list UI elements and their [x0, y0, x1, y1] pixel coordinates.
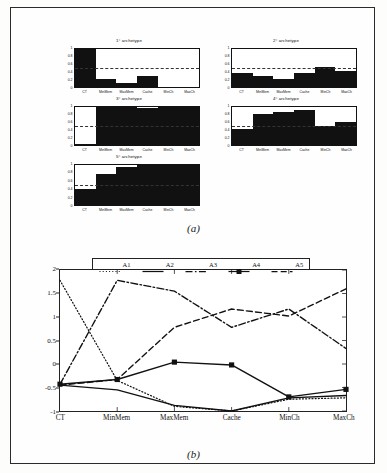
archetype-bar: [294, 110, 315, 145]
archetype-x-tick: MaxCh: [336, 88, 357, 96]
archetype-y-tick: 0.2: [68, 78, 73, 82]
archetype-x-tick: MinCh: [315, 88, 336, 96]
archetype-y-tick: 0: [228, 144, 230, 148]
x-axis-ticks: CTMinMemMaxMemCacheMinChMaxCh: [59, 414, 347, 426]
archetype-x-tick: MinMem: [95, 146, 116, 154]
archetype-x-tick: MaxMem: [116, 88, 137, 96]
archetype-x-tick: MinMem: [252, 146, 273, 154]
archetype-x-tick: MaxCh: [179, 88, 200, 96]
archetype-x-tick: Cache: [137, 146, 158, 154]
y-tick-label: 0.5: [47, 337, 56, 345]
legend-label: A3: [209, 261, 217, 268]
legend-item-a1: A1: [99, 261, 131, 268]
archetype-y-tick: 0.2: [225, 78, 230, 82]
archetype-y-tick: 0.2: [225, 136, 230, 140]
archetype-x-tick: MinMem: [252, 88, 273, 96]
x-tick-label: Cache: [223, 414, 241, 422]
archetype-x-tick: CT: [74, 88, 95, 96]
archetype-plot-area: [74, 106, 200, 146]
archetype-bar: [137, 76, 158, 87]
legend-line-swatch: [99, 261, 121, 268]
x-tick-label: CT: [56, 414, 65, 422]
legend-line-swatch: [228, 261, 250, 268]
archetype-x-tick: CT: [74, 146, 95, 154]
archetype-y-tick: 0.2: [68, 196, 73, 200]
archetype-x-tick: CT: [74, 206, 95, 214]
archetype-y-tick: 0.8: [225, 54, 230, 58]
archetype-x-tick: MinMem: [95, 206, 116, 214]
archetype-threshold-line: [75, 68, 199, 69]
figure-page: 1° archetype00.20.40.60.81CTMinMemMaxMem…: [0, 0, 387, 473]
archetype-threshold-line: [232, 68, 356, 69]
archetype-x-tick: MaxCh: [336, 146, 357, 154]
series-line-a3: [60, 280, 346, 384]
archetype-x-tick: MaxMem: [116, 146, 137, 154]
x-tick-label: MaxCh: [333, 414, 355, 422]
archetype-y-tick: 1: [71, 104, 73, 108]
panel-b-linechart: A1A2A3A4A5 21.510.50-0.5-1 CTMinMemMaxMe…: [34, 258, 354, 438]
archetype-bar: [273, 112, 294, 145]
archetype-bar: [315, 67, 336, 87]
archetype-y-tick: 1: [228, 104, 230, 108]
line-series-group: [60, 270, 346, 411]
archetype-bar: [75, 144, 96, 145]
archetype-threshold-line: [75, 126, 199, 127]
legend-label: A1: [123, 261, 131, 268]
legend-item-a5: A5: [271, 261, 303, 268]
archetype-x-tick: MinCh: [315, 146, 336, 154]
archetype-x-tick: CT: [231, 88, 252, 96]
archetype-bar: [315, 126, 336, 145]
archetype-bar: [96, 174, 117, 205]
archetype-bar: [253, 76, 274, 87]
archetype-y-tick: 0.4: [225, 128, 230, 132]
archetype-y-tick: 0.6: [225, 62, 230, 66]
archetype-bar: [294, 73, 315, 87]
series-line-a2: [60, 385, 346, 411]
archetype-y-tick: 0.8: [68, 170, 73, 174]
archetype-x-axis: CTMinMemMaxMemCacheMinChMaxCh: [74, 206, 200, 214]
archetype-y-axis: 00.20.40.60.81: [58, 164, 74, 206]
archetype-y-tick: 1: [71, 162, 73, 166]
archetype-x-tick: MaxMem: [273, 146, 294, 154]
archetype-threshold-line: [75, 185, 199, 186]
legend-label: A5: [295, 261, 303, 268]
archetype-y-tick: 0.4: [68, 128, 73, 132]
legend-item-a2: A2: [142, 261, 174, 268]
archetype-y-tick: 0: [71, 204, 73, 208]
series-line-a1: [60, 280, 346, 411]
archetype-y-axis: 00.20.40.60.81: [215, 106, 231, 146]
panel-a-caption: (a): [0, 222, 387, 234]
archetype-x-tick: MinMem: [95, 88, 116, 96]
series-marker-a4: [172, 360, 177, 365]
archetype-bar: [253, 114, 274, 145]
archetype-y-tick: 0: [71, 144, 73, 148]
x-tick-label: MinCh: [279, 414, 299, 422]
y-axis-ticks: 21.510.50-0.5-1: [34, 269, 59, 412]
archetype-plot-area: [231, 48, 357, 88]
archetype-plot-area: [74, 164, 200, 206]
archetype-y-tick: 0.4: [68, 187, 73, 191]
archetype-y-tick: 0.6: [225, 120, 230, 124]
archetype-y-tick: 1: [71, 46, 73, 50]
archetype-bar: [232, 129, 253, 145]
archetype-x-axis: CTMinMemMaxMemCacheMinChMaxCh: [74, 88, 200, 96]
archetype-chart-4: 4° archetype00.20.40.60.81CTMinMemMaxMem…: [215, 106, 357, 154]
archetype-chart-title: 5° archetype: [58, 154, 200, 159]
archetype-y-tick: 0.8: [225, 112, 230, 116]
archetype-bar: [116, 83, 137, 87]
archetype-chart-2: 2° archetype00.20.40.60.81CTMinMemMaxMem…: [215, 48, 357, 96]
archetype-x-axis: CTMinMemMaxMemCacheMinChMaxCh: [231, 88, 357, 96]
archetype-chart-title: 1° archetype: [58, 38, 200, 43]
archetype-y-axis: 00.20.40.60.81: [58, 106, 74, 146]
archetype-bar: [335, 71, 356, 87]
archetype-bar: [273, 79, 294, 87]
archetype-y-tick: 0.6: [68, 120, 73, 124]
series-marker-a4: [57, 382, 62, 387]
archetype-y-tick: 0: [228, 86, 230, 90]
archetype-x-tick: MaxCh: [179, 146, 200, 154]
archetype-chart-title: 4° archetype: [215, 96, 357, 101]
archetype-y-axis: 00.20.40.60.81: [215, 48, 231, 88]
legend-line-swatch: [271, 261, 293, 268]
archetype-y-tick: 0.4: [225, 70, 230, 74]
archetype-x-tick: MaxMem: [116, 206, 137, 214]
